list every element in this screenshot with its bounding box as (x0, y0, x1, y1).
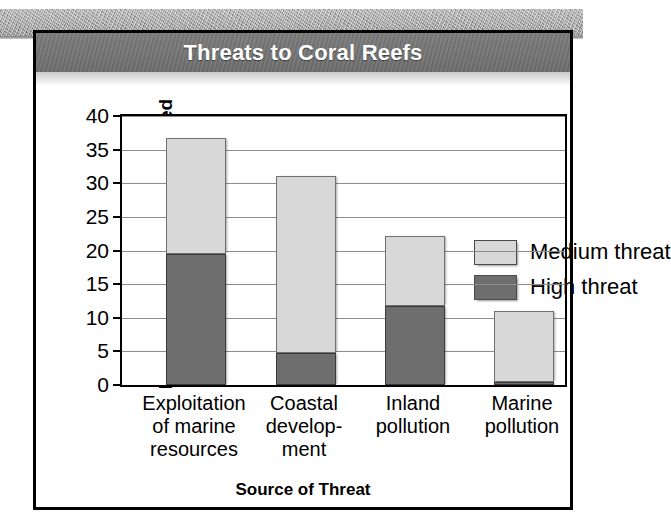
y-axis-tick-label: 35 (86, 138, 109, 162)
y-axis-tick-label: 40 (86, 104, 109, 128)
bar-segment-medium-threat (494, 311, 554, 382)
chart-legend: Medium threatHigh threat (474, 239, 671, 309)
x-axis-tick-label-line: pollution (432, 415, 612, 438)
bar-2 (276, 176, 336, 385)
y-axis-tick-label: 20 (86, 239, 109, 263)
y-axis-tick-label: 25 (86, 205, 109, 229)
legend-label: High threat (530, 274, 638, 300)
bar-segment-medium-threat (385, 236, 445, 307)
x-axis-tick-label-line: ment (214, 438, 394, 461)
title-gradient-fade (36, 72, 570, 86)
y-axis-tick (113, 384, 122, 386)
y-axis-tick (113, 350, 122, 352)
y-axis-tick-label: 30 (86, 171, 109, 195)
gridline (122, 116, 565, 117)
bar-segment-medium-threat (276, 176, 336, 353)
y-axis-tick-label: 5 (97, 339, 109, 363)
x-axis-title: Source of Threat (36, 480, 570, 500)
bar-segment-medium-threat (166, 138, 226, 254)
y-axis-tick (113, 283, 122, 285)
y-axis-tick (113, 250, 122, 252)
plot-area: Medium threatHigh threat 051015202530354… (120, 114, 567, 387)
y-axis-tick-label: 15 (86, 272, 109, 296)
legend-swatch (474, 275, 517, 300)
bar-segment-high-threat (494, 382, 554, 385)
legend-item: High threat (474, 274, 671, 300)
legend-swatch (474, 240, 517, 265)
x-axis-tick-label-line: Marine (432, 392, 612, 415)
legend-item: Medium threat (474, 239, 671, 265)
bar-1 (166, 138, 226, 385)
bar-segment-high-threat (276, 353, 336, 385)
chart-title-bar: Threats to Coral Reefs (36, 33, 570, 72)
bar-4 (494, 311, 554, 385)
bar-3 (385, 236, 445, 385)
y-axis-tick (113, 317, 122, 319)
y-axis-tick (113, 149, 122, 151)
bar-segment-high-threat (385, 306, 445, 385)
legend-label: Medium threat (530, 239, 671, 265)
y-axis-tick (113, 182, 122, 184)
chart-figure: Threats to Coral Reefs Percentage of Ree… (33, 30, 573, 510)
bar-segment-high-threat (166, 254, 226, 385)
y-axis-tick-label: 10 (86, 306, 109, 330)
x-axis-tick-label: Marinepollution (432, 392, 612, 438)
y-axis-tick (113, 216, 122, 218)
page-title: Threats to Coral Reefs (183, 40, 422, 66)
y-axis-tick (113, 115, 122, 117)
